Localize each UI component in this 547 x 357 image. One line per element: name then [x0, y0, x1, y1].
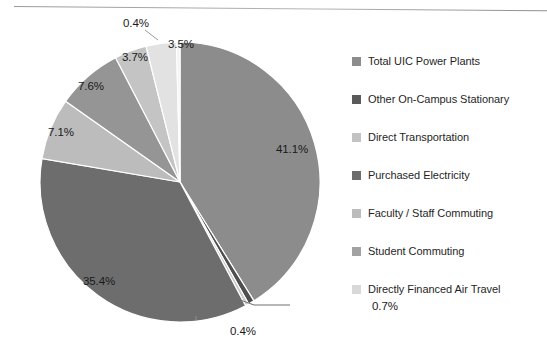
pie-chart-figure: 41.1%35.4%7.1%7.6%3.7%3.5%0.4%0.7%0.4% T… — [0, 0, 547, 357]
legend-item[interactable]: Faculty / Staff Commuting — [352, 194, 547, 232]
legend-item[interactable]: Directly Financed Air Travel — [352, 270, 547, 308]
pie-data-label: 35.4% — [83, 275, 115, 287]
pie-data-label: 7.1% — [48, 126, 74, 138]
legend-swatch-icon — [352, 247, 361, 256]
legend-swatch-icon — [352, 95, 361, 104]
legend-item-label: Student Commuting — [368, 245, 464, 257]
leader-line-top-small-slice — [145, 30, 158, 40]
legend-item[interactable]: Student Commuting — [352, 232, 547, 270]
chart-legend: Total UIC Power PlantsOther On-Campus St… — [352, 42, 547, 308]
legend-swatch-icon — [352, 209, 361, 218]
legend-item[interactable]: Other On-Campus Stationary — [352, 80, 547, 118]
pie-data-label: 0.4% — [123, 17, 149, 29]
legend-swatch-icon — [352, 57, 361, 66]
legend-item-label: Direct Transportation — [368, 131, 469, 143]
legend-item-label: Directly Financed Air Travel — [368, 283, 500, 295]
legend-swatch-icon — [352, 133, 361, 142]
legend-item[interactable]: Purchased Electricity — [352, 156, 547, 194]
legend-swatch-icon — [352, 171, 361, 180]
pie-plot-area: 41.1%35.4%7.1%7.6%3.7%3.5%0.4%0.7%0.4% — [0, 0, 340, 357]
pie-data-label: 3.5% — [168, 38, 194, 50]
legend-item-label: Faculty / Staff Commuting — [368, 207, 493, 219]
pie-data-label: 0.4% — [230, 325, 256, 337]
pie-data-label: 3.7% — [122, 51, 148, 63]
legend-item[interactable]: Total UIC Power Plants — [352, 42, 547, 80]
legend-item-label: Total UIC Power Plants — [368, 55, 480, 67]
pie-data-label: 7.6% — [78, 80, 104, 92]
legend-swatch-icon — [352, 285, 361, 294]
pie-data-label: 41.1% — [276, 143, 308, 155]
legend-item-label: Other On-Campus Stationary — [368, 93, 509, 105]
legend-item[interactable]: Direct Transportation — [352, 118, 547, 156]
pie-svg — [0, 0, 340, 357]
legend-item-label: Purchased Electricity — [368, 169, 470, 181]
